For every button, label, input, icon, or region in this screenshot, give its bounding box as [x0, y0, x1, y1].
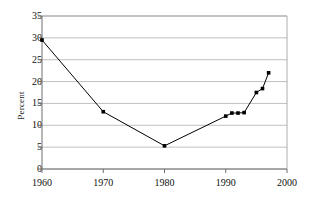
line-chart: Percent 05101520253035 19601970198019902…: [0, 0, 311, 211]
plot-area: [0, 0, 311, 211]
data-point-marker: [261, 87, 265, 91]
data-point-marker: [230, 111, 234, 115]
data-point-marker: [267, 71, 271, 75]
data-point-marker: [255, 91, 259, 95]
data-series: [40, 38, 270, 147]
series-line: [42, 40, 269, 146]
data-point-marker: [236, 111, 240, 115]
x-axis-ticks: [42, 169, 287, 173]
data-point-marker: [40, 38, 44, 42]
data-point-marker: [242, 111, 246, 115]
data-point-marker: [163, 144, 167, 148]
data-point-marker: [224, 114, 228, 118]
data-point-marker: [101, 110, 105, 114]
